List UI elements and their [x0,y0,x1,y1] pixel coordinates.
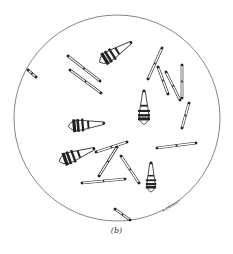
rod-bacterium [67,55,102,83]
rod-bacterium [181,102,191,130]
rod-bacterium [27,69,38,79]
club-bacterium [146,162,156,193]
rod-bacterium [165,71,182,102]
artist-signature: A. ZAGRAN F [162,199,182,213]
club-bacterium [96,36,136,67]
rod-bacterium [181,64,184,100]
rod-bacteria-group [27,47,198,222]
rod-bacterium [157,66,170,96]
microscope-field-circle [14,15,220,221]
rod-bacterium [156,142,198,150]
rod-bacterium [114,208,132,222]
figure-caption: (b) [0,226,233,235]
rod-bacterium [95,141,129,154]
club-bacterium [57,142,98,167]
rod-bacterium [81,178,127,185]
bacteria-micrograph-illustration: A. ZAGRAN F [0,0,233,254]
rod-bacterium [69,69,103,95]
club-bacterium [68,117,106,133]
club-bacterium [138,90,150,125]
